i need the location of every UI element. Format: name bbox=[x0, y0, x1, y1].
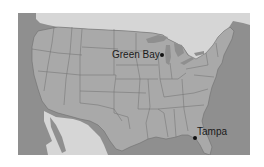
tampa-label: Tampa bbox=[197, 127, 227, 137]
map: Green Bay Tampa bbox=[18, 13, 250, 155]
green-bay-marker bbox=[160, 53, 164, 57]
green-bay-label: Green Bay bbox=[112, 50, 160, 60]
